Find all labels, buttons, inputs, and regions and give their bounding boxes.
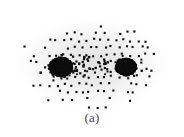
scatter-dot-field xyxy=(0,0,184,110)
dot-density-plot xyxy=(0,0,184,110)
figure-caption: (a) xyxy=(0,110,184,126)
figure-panel-a: (a) xyxy=(0,0,184,137)
